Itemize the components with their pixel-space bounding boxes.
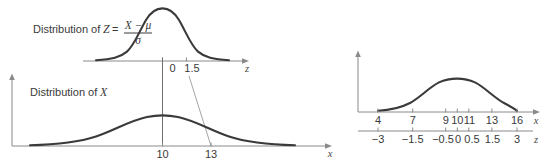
top-chart-caption-variable: Z — [103, 22, 110, 36]
right-x-label-16: 16 — [511, 114, 523, 126]
z-tick-label-1point5: 1.5 — [184, 62, 199, 74]
x-axis-name: x — [327, 148, 333, 159]
bottom-left-x-chart: 10 13 x Distribution of X — [9, 74, 332, 161]
right-z-tick-labels: −3 −1.5 −0.5 0 0.5 1.5 3 z — [372, 133, 538, 145]
top-chart-caption-prefix: Distribution of — [33, 23, 101, 35]
right-vertical-axis-arrowhead — [355, 51, 361, 58]
right-dual-axis-chart: 4 7 9 10 11 13 16 x −3 −1.5 −0.5 0 0.5 1… — [355, 51, 540, 146]
top-left-z-chart: 0 1.5 z Distribution of Z = X − μ σ — [33, 8, 249, 74]
right-z-label-neg3: −3 — [372, 133, 385, 145]
right-z-label-3: 3 — [514, 133, 520, 145]
right-x-label-4: 4 — [375, 114, 381, 126]
x-chart-vertical-axis-arrowhead — [9, 74, 15, 81]
z-formula-denominator: σ — [135, 34, 142, 46]
standardization-figure: 0 1.5 z Distribution of Z = X − μ σ — [0, 0, 557, 163]
x-tick-label-10: 10 — [156, 148, 168, 160]
right-x-axis-arrowhead — [533, 109, 540, 115]
bottom-chart-caption-variable: X — [99, 85, 108, 99]
bottom-chart-caption-prefix: Distribution of — [30, 86, 98, 98]
right-z-label-neg1p5: −1.5 — [402, 133, 424, 145]
top-chart-caption-equals: = — [112, 23, 118, 35]
right-z-label-0: 0 — [455, 133, 461, 145]
right-x-axis-name: x — [533, 115, 539, 126]
right-distribution-curve — [378, 79, 517, 111]
z-formula-fraction: X − μ σ — [124, 19, 152, 46]
x-tick-label-13: 13 — [205, 148, 217, 160]
right-z-label-1p5: 1.5 — [485, 133, 500, 145]
right-x-label-11: 11 — [464, 114, 475, 126]
right-z-axis-name: z — [533, 134, 538, 145]
right-x-tick-labels: 4 7 9 10 11 13 16 x — [375, 114, 539, 126]
right-z-label-0p5: 0.5 — [464, 133, 479, 145]
right-x-label-9: 9 — [443, 114, 449, 126]
right-x-label-13: 13 — [486, 114, 498, 126]
z-axis-name: z — [244, 63, 249, 74]
right-x-label-7: 7 — [410, 114, 416, 126]
z-formula-numerator: X − μ — [124, 19, 152, 32]
right-x-label-10: 10 — [451, 114, 463, 126]
right-z-label-neg0p5: −0.5 — [432, 133, 454, 145]
connector-onepointfive-to-thirteen — [189, 76, 211, 146]
z-tick-label-0: 0 — [169, 62, 175, 74]
